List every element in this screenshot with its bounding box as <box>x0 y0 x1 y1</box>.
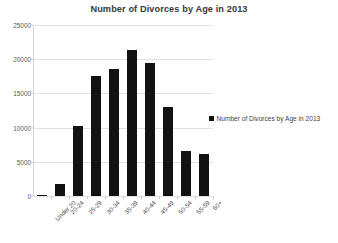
bar <box>163 107 173 196</box>
bar-group <box>105 25 123 196</box>
chart-legend: Number of Divorces by Age in 2013 <box>209 114 337 124</box>
x-axis-tick-label: 30-34 <box>105 199 121 215</box>
plot-area <box>33 25 213 196</box>
x-axis-tick-mark <box>69 196 70 199</box>
bar-group <box>87 25 105 196</box>
bar-group <box>177 25 195 196</box>
bar <box>145 63 155 196</box>
x-axis-tick-mark <box>213 196 214 199</box>
bar-group <box>195 25 213 196</box>
x-axis-tick-label: 60+ <box>211 199 224 212</box>
x-axis-tick-mark <box>195 196 196 199</box>
bar <box>199 154 209 196</box>
bar-group <box>51 25 69 196</box>
x-axis-tick-mark <box>141 196 142 199</box>
legend-color-swatch <box>209 116 214 121</box>
y-axis-tick-label: 20000 <box>2 56 31 63</box>
legend-item-label: Number of Divorces by Age in 2013 <box>217 114 321 124</box>
bar-group <box>141 25 159 196</box>
x-axis-tick-mark <box>51 196 52 199</box>
y-axis-tick-label: 10000 <box>2 124 31 131</box>
x-axis-tick-label: 25-29 <box>87 199 103 215</box>
bar <box>37 195 47 196</box>
x-axis-tick-mark <box>177 196 178 199</box>
x-axis-tick-label: 40-44 <box>141 199 157 215</box>
y-axis-tick-label: 5000 <box>2 158 31 165</box>
bar <box>55 184 65 196</box>
bar-group <box>33 25 51 196</box>
x-axis-tick-label: 55-59 <box>195 199 211 215</box>
x-axis-tick-mark <box>123 196 124 199</box>
x-axis-tick-label: 35-39 <box>123 199 139 215</box>
x-axis-tick-mark <box>159 196 160 199</box>
x-axis-tick-mark <box>87 196 88 199</box>
x-axis-tick-mark <box>105 196 106 199</box>
x-axis-tick-label: 50-54 <box>177 199 193 215</box>
bar <box>109 69 119 196</box>
bar <box>73 126 83 196</box>
legend-item: Number of Divorces by Age in 2013 <box>209 114 337 124</box>
bar-group <box>123 25 141 196</box>
chart-title: Number of Divorces by Age in 2013 <box>0 4 338 14</box>
y-axis-tick-label: 25000 <box>2 22 31 29</box>
x-axis-labels: Under 2020-2425-2930-3435-3940-4445-4950… <box>33 199 213 243</box>
y-axis: 0500010000150002000025000 <box>0 25 31 196</box>
bar <box>91 76 101 196</box>
y-axis-tick-label: 15000 <box>2 90 31 97</box>
bar-chart: Number of Divorces by Age in 2013 050001… <box>0 0 338 243</box>
x-axis-tick-label: 45-49 <box>159 199 175 215</box>
bar-group <box>69 25 87 196</box>
bar <box>181 151 191 196</box>
bar <box>127 50 137 196</box>
y-axis-tick-label: 0 <box>2 193 31 200</box>
bar-group <box>159 25 177 196</box>
